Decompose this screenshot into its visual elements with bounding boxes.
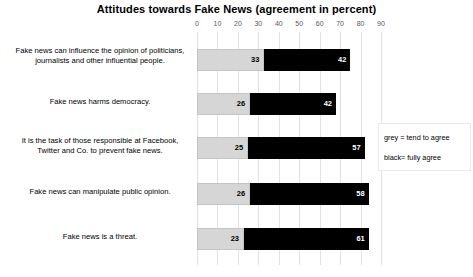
bar-segment-fully-agree-0[interactable]: 42 (264, 49, 350, 71)
bar-value-tend-3: 26 (237, 190, 245, 198)
page-title: Attitudes towards Fake News (agreement i… (0, 3, 473, 15)
x-tick-90: 90 (377, 20, 385, 27)
bar-value-tend-0: 33 (251, 56, 259, 64)
x-axis-tick-labels: 0 10 20 30 40 50 60 70 80 90 (0, 20, 473, 32)
bar-segment-fully-agree-3[interactable]: 58 (250, 183, 369, 205)
chart-legend: grey = tend to agree black= fully agree (378, 123, 471, 171)
category-label-0: Fake news can influence the opinion of p… (10, 46, 190, 66)
x-tick-60: 60 (316, 20, 324, 27)
x-tick-80: 80 (357, 20, 365, 27)
chart-container: Attitudes towards Fake News (agreement i… (0, 0, 473, 277)
bar-group-3: 26 58 (197, 183, 369, 205)
bar-group-0: 33 42 (197, 49, 350, 71)
bar-value-fully-4: 61 (356, 235, 364, 243)
bar-segment-fully-agree-1[interactable]: 42 (250, 93, 336, 115)
bar-segment-tend-to-agree-0[interactable]: 33 (197, 49, 264, 71)
bar-group-2: 25 57 (197, 137, 365, 159)
category-label-2: It is the task of those responsible at F… (10, 136, 190, 156)
bar-segment-fully-agree-2[interactable]: 57 (248, 137, 365, 159)
category-label-4: Fake news is a threat. (10, 232, 190, 242)
bar-value-fully-2: 57 (352, 144, 360, 152)
bar-value-tend-1: 26 (237, 100, 245, 108)
bar-segment-tend-to-agree-1[interactable]: 26 (197, 93, 250, 115)
bar-value-tend-4: 23 (231, 235, 239, 243)
x-tick-40: 40 (275, 20, 283, 27)
x-tick-30: 30 (254, 20, 262, 27)
x-tick-70: 70 (336, 20, 344, 27)
category-label-3: Fake news can manipulate public opinion. (10, 187, 190, 197)
bar-segment-tend-to-agree-2[interactable]: 25 (197, 137, 248, 159)
category-label-1: Fake news harms democracy. (10, 97, 190, 107)
bar-segment-tend-to-agree-3[interactable]: 26 (197, 183, 250, 205)
bar-segment-tend-to-agree-4[interactable]: 23 (197, 228, 244, 250)
legend-entry-tend-to-agree: grey = tend to agree (384, 133, 450, 142)
bar-value-fully-1: 42 (324, 100, 332, 108)
bar-value-fully-0: 42 (338, 56, 346, 64)
x-tick-50: 50 (295, 20, 303, 27)
bar-value-fully-3: 58 (356, 190, 364, 198)
bar-group-4: 23 61 (197, 228, 369, 250)
bar-segment-fully-agree-4[interactable]: 61 (244, 228, 369, 250)
bar-value-tend-2: 25 (235, 144, 243, 152)
legend-entry-fully-agree: black= fully agree (384, 153, 441, 162)
x-tick-0: 0 (195, 20, 199, 27)
x-tick-10: 10 (213, 20, 221, 27)
x-tick-20: 20 (234, 20, 242, 27)
bar-group-1: 26 42 (197, 93, 336, 115)
